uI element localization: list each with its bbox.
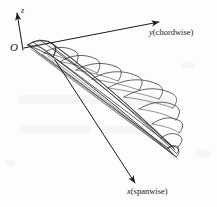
x-axis-description: (spanwise) (131, 186, 168, 196)
origin-symbol: O (10, 41, 18, 53)
x-axis-label: x(spanwise) (127, 187, 168, 196)
z-axis-label: z (21, 7, 24, 15)
origin-label: O (10, 42, 18, 53)
z-axis-symbol: z (21, 6, 24, 15)
wing-coordinate-figure: z O y(chordwise) x(spanwise) (0, 0, 217, 207)
x-axis-line (55, 60, 135, 183)
y-axis-description: (chordwise) (153, 27, 194, 37)
y-axis-line (24, 22, 159, 48)
y-axis-label: y(chordwise) (149, 28, 193, 37)
